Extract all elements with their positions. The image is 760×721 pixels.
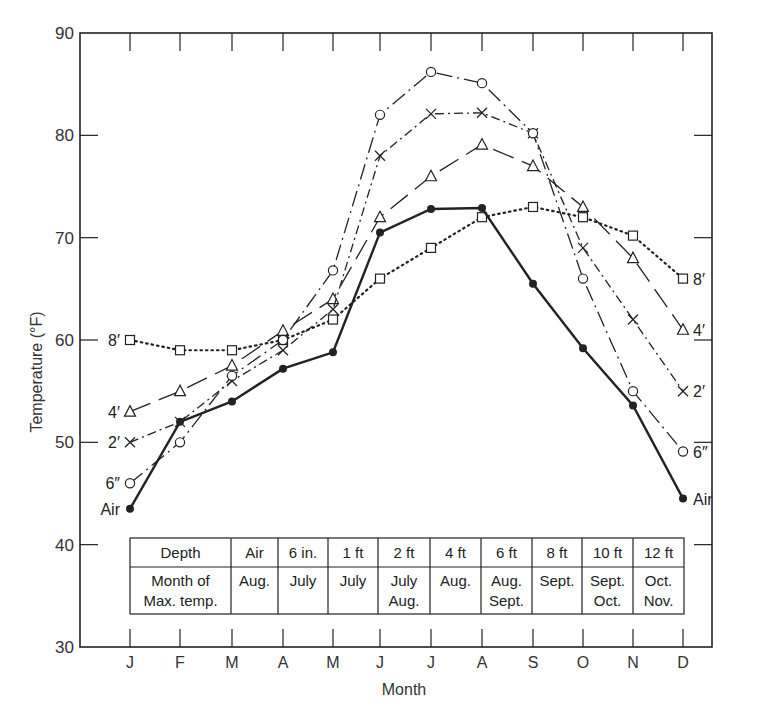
y-tick-label: 30 bbox=[55, 638, 74, 657]
table-month-cell: Aug. bbox=[239, 572, 270, 589]
x-tick-label: S bbox=[528, 654, 539, 671]
series-label-right: 8′ bbox=[693, 271, 705, 288]
table-depth-cell: 1 ft bbox=[343, 544, 365, 561]
series-label-right: Air bbox=[693, 491, 713, 508]
table-month-cell: Nov. bbox=[644, 592, 674, 609]
x-tick-label: A bbox=[477, 654, 488, 671]
table-month-cell: Sept. bbox=[489, 592, 524, 609]
x-tick-label: J bbox=[126, 654, 134, 671]
x-tick-label: N bbox=[627, 654, 639, 671]
series-label-right: 4′ bbox=[693, 322, 705, 339]
series-label-left: 6″ bbox=[105, 475, 120, 492]
x-tick-label: M bbox=[225, 654, 238, 671]
table-month-cell: Oct. bbox=[645, 572, 673, 589]
table-depth-cell: 10 ft bbox=[593, 544, 623, 561]
table-month-cell: Aug. bbox=[389, 592, 420, 609]
series-label-left: Air bbox=[100, 501, 120, 518]
x-tick-label: J bbox=[376, 654, 384, 671]
table-depth-cell: 8 ft bbox=[547, 544, 569, 561]
series-label-left: 2′ bbox=[108, 434, 120, 451]
table-row-label: Month of bbox=[151, 572, 210, 589]
max-temp-table: DepthAir6 in.1 ft2 ft4 ft6 ft8 ft10 ft12… bbox=[130, 538, 684, 614]
series-label-right: 6″ bbox=[693, 444, 708, 461]
series-8-ft bbox=[126, 202, 688, 354]
table-depth-cell: 6 in. bbox=[289, 544, 317, 561]
table-month-cell: Sept. bbox=[590, 572, 625, 589]
table-depth-cell: 4 ft bbox=[445, 544, 467, 561]
y-tick-label: 60 bbox=[55, 331, 74, 350]
table-month-cell: July bbox=[340, 572, 367, 589]
x-tick-label: D bbox=[677, 654, 689, 671]
x-tick-label: A bbox=[278, 654, 289, 671]
series-label-right: 2′ bbox=[693, 383, 705, 400]
table-depth-cell: 2 ft bbox=[394, 544, 416, 561]
series-6-in- bbox=[125, 67, 687, 488]
x-tick-label: O bbox=[577, 654, 589, 671]
x-axis-title: Month bbox=[382, 681, 426, 698]
table-depth-cell: 6 ft bbox=[496, 544, 518, 561]
table-header-label: Depth bbox=[160, 544, 200, 561]
table-month-cell: July bbox=[391, 572, 418, 589]
table-month-cell: Aug. bbox=[491, 572, 522, 589]
table-row-label: Max. temp. bbox=[143, 592, 217, 609]
series-2-ft bbox=[125, 108, 688, 448]
x-tick-label: M bbox=[326, 654, 339, 671]
y-axis-title: Temperature (°F) bbox=[28, 311, 45, 432]
y-tick-label: 80 bbox=[55, 126, 74, 145]
series-label-left: 8′ bbox=[108, 332, 120, 349]
y-tick-label: 40 bbox=[55, 536, 74, 555]
x-tick-label: J bbox=[427, 654, 435, 671]
table-month-cell: July bbox=[290, 572, 317, 589]
table-month-cell: Aug. bbox=[440, 572, 471, 589]
series-label-left: 4′ bbox=[108, 404, 120, 421]
temperature-depth-chart: 30405060708090 JFMAMJJASOND Temperature … bbox=[0, 0, 760, 721]
x-tick-label: F bbox=[175, 654, 185, 671]
y-tick-label: 90 bbox=[55, 24, 74, 43]
series-4-ft bbox=[125, 139, 689, 417]
series-labels: 8′8′4′4′2′2′6″6″AirAir bbox=[100, 271, 713, 518]
y-tick-label: 50 bbox=[55, 433, 74, 452]
series-lines bbox=[125, 67, 689, 513]
y-tick-label: 70 bbox=[55, 229, 74, 248]
table-depth-cell: Air bbox=[245, 544, 263, 561]
table-month-cell: Oct. bbox=[594, 592, 622, 609]
series-air bbox=[126, 204, 687, 513]
table-depth-cell: 12 ft bbox=[644, 544, 674, 561]
table-month-cell: Sept. bbox=[539, 572, 574, 589]
